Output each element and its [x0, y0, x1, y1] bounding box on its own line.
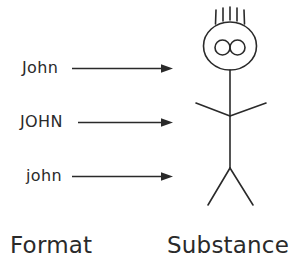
left-arm-line — [196, 103, 230, 116]
arrow-head — [161, 64, 173, 73]
arrow-john-lower — [72, 172, 173, 181]
hair-strand — [216, 10, 217, 24]
hair-strand — [244, 10, 245, 24]
arrow-john-upper — [78, 118, 173, 127]
left-eye-icon — [215, 40, 230, 55]
format-entry-mixed-case: John — [22, 60, 58, 76]
arrow-john-mixed — [72, 64, 173, 73]
arrow-head — [161, 118, 173, 127]
arrow-head — [161, 172, 173, 181]
right-eye-icon — [230, 40, 245, 55]
format-column-caption: Format — [10, 234, 92, 257]
substance-column-caption: Substance — [167, 234, 289, 257]
format-entry-lower-case: john — [26, 168, 62, 184]
arrow-group — [72, 64, 173, 181]
figure-canvas: John JOHN john Format Substance — [0, 0, 305, 269]
diagram-drawing — [0, 0, 305, 269]
right-leg-line — [230, 168, 253, 205]
stick-figure — [196, 7, 266, 205]
format-entry-upper-case: JOHN — [20, 114, 63, 130]
right-arm-line — [230, 103, 266, 116]
left-leg-line — [208, 168, 230, 205]
